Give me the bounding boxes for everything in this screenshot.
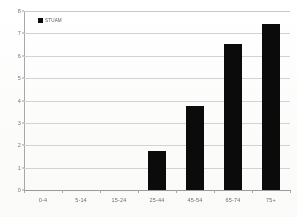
x-tick-mark-0 (24, 190, 25, 193)
bars-group (24, 11, 290, 190)
legend-entry-label: STUAM (45, 18, 62, 23)
bar-75+ (262, 24, 280, 190)
x-tick-label-0-4: 0-4 (39, 197, 47, 203)
plot-area: 012345678 (24, 11, 290, 190)
x-tick-mark-3 (138, 190, 139, 193)
y-tick-label-5: 5 (18, 75, 21, 81)
x-tick-label-5-14: 5-14 (75, 197, 87, 203)
chart-legend: STUAM (38, 18, 62, 23)
x-tick-mark-1 (62, 190, 63, 193)
bar-45-54 (186, 106, 204, 190)
x-tick-label-15-24: 15-24 (112, 197, 127, 203)
x-tick-label-25-44: 25-44 (150, 197, 165, 203)
x-tick-label-45-54: 45-54 (188, 197, 203, 203)
y-tick-label-4: 4 (18, 98, 21, 104)
y-tick-label-2: 2 (18, 142, 21, 148)
y-tick-label-3: 3 (18, 120, 21, 126)
x-tick-mark-end (290, 190, 291, 193)
bar-chart: 012345678 0-45-1415-2425-4445-5465-7475+… (0, 0, 297, 217)
y-tick-label-0: 0 (18, 187, 21, 193)
bar-25-44 (148, 151, 166, 190)
bar-65-74 (224, 44, 242, 190)
y-tick-label-7: 7 (18, 30, 21, 36)
x-tick-label-75+: 75+ (266, 197, 276, 203)
y-tick-label-8: 8 (18, 8, 21, 14)
x-tick-mark-6 (252, 190, 253, 193)
x-tick-mark-5 (214, 190, 215, 193)
x-tick-label-65-74: 65-74 (226, 197, 241, 203)
legend-swatch-icon (38, 18, 43, 23)
gridline-0 (24, 190, 290, 191)
y-tick-label-1: 1 (18, 165, 21, 171)
x-tick-mark-2 (100, 190, 101, 193)
y-tick-label-6: 6 (18, 53, 21, 59)
x-tick-mark-4 (176, 190, 177, 193)
